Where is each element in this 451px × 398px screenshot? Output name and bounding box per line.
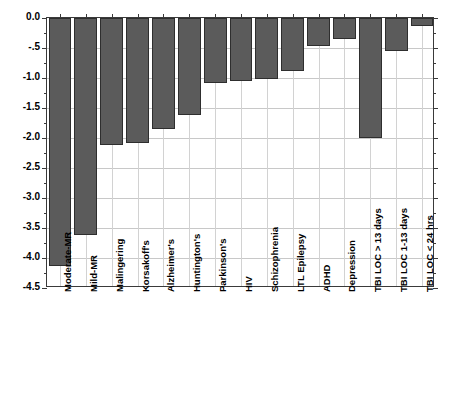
bar: [100, 18, 123, 145]
y-axis-minor-tick: [433, 213, 436, 214]
y-axis-major-tick: [433, 78, 438, 79]
gridline: [47, 198, 433, 199]
y-axis-major-tick: [42, 288, 47, 289]
bar: [307, 18, 330, 46]
y-axis-minor-tick: [433, 183, 436, 184]
y-axis-major-tick: [42, 228, 47, 229]
y-axis-major-tick: [433, 48, 438, 49]
y-axis-major-tick: [42, 48, 47, 49]
y-axis-major-tick: [42, 258, 47, 259]
y-axis-major-tick: [433, 168, 438, 169]
bar: [74, 18, 97, 235]
bar: [178, 18, 201, 115]
y-axis-major-tick: [42, 108, 47, 109]
y-axis-major-tick: [433, 138, 438, 139]
bar: [255, 18, 278, 79]
y-axis-minor-tick: [433, 123, 436, 124]
x-axis-category-label: Parkinson's: [218, 239, 228, 292]
x-axis-category-label: TBI LOC 1-13 days: [399, 208, 409, 292]
y-axis-minor-tick: [44, 63, 47, 64]
y-axis-major-tick: [42, 78, 47, 79]
y-axis-tick-label: -1.5: [2, 102, 40, 112]
y-axis-major-tick: [433, 18, 438, 19]
bar: [230, 18, 253, 81]
y-axis-minor-tick: [433, 33, 436, 34]
bar: [411, 18, 434, 26]
x-axis-category-label: Moderate-MR: [63, 232, 73, 292]
bar: [359, 18, 382, 138]
y-axis-minor-tick: [433, 63, 436, 64]
y-axis-tick-label: -2.5: [2, 162, 40, 172]
vertical-gridline: [344, 18, 345, 286]
y-axis-tick-label: -4.5: [2, 282, 40, 292]
y-axis-minor-tick: [44, 273, 47, 274]
y-axis-minor-tick: [44, 243, 47, 244]
x-axis-category-label: ADHD: [322, 265, 332, 292]
y-axis-minor-tick: [44, 93, 47, 94]
y-axis-tick-label: -3.0: [2, 192, 40, 202]
y-axis-tick-label: 0.0: [2, 12, 40, 22]
y-axis-minor-tick: [44, 183, 47, 184]
y-axis-minor-tick: [44, 213, 47, 214]
bar: [281, 18, 304, 71]
x-axis-category-label: Alzheimer's: [166, 239, 176, 292]
y-axis-minor-tick: [44, 153, 47, 154]
y-axis-major-tick: [42, 198, 47, 199]
vertical-gridline: [396, 18, 397, 286]
vertical-gridline: [422, 18, 423, 286]
y-axis-minor-tick: [44, 123, 47, 124]
y-axis-minor-tick: [433, 93, 436, 94]
bar: [385, 18, 408, 51]
x-axis-category-label: Korsakoff's: [141, 240, 151, 292]
bar: [126, 18, 149, 143]
x-axis-category-label: HIV: [244, 276, 254, 292]
bar: [204, 18, 227, 83]
x-axis-category-label: Depression: [347, 240, 357, 292]
vertical-gridline: [319, 18, 320, 286]
bar-chart: 0.0-.5-1.0-1.5-2.0-2.5-3.0-3.5-4.0-4.5 M…: [0, 0, 451, 398]
x-axis-category-label: Malingering: [115, 239, 125, 292]
y-axis-minor-tick: [433, 153, 436, 154]
y-axis-minor-tick: [44, 33, 47, 34]
x-axis-category-label: Mild-MR: [89, 255, 99, 292]
bar: [152, 18, 175, 129]
y-axis-tick-label: -4.0: [2, 252, 40, 262]
x-axis-category-label: LTL Epilepsy: [296, 234, 306, 292]
gridline: [47, 168, 433, 169]
x-axis-category-label: TBI LOC < 24 hrs: [425, 215, 435, 292]
y-axis-major-tick: [42, 138, 47, 139]
x-axis-category-label: TBI LOC > 13 days: [373, 208, 383, 292]
x-axis-category-label: Huntington's: [192, 234, 202, 292]
bar: [49, 18, 72, 266]
y-axis-tick-label: -1.0: [2, 72, 40, 82]
y-axis-major-tick: [433, 198, 438, 199]
y-axis-tick-label: -3.5: [2, 222, 40, 232]
bar: [333, 18, 356, 39]
x-axis-category-label: Schizophrenia: [270, 227, 280, 292]
y-axis-major-tick: [433, 108, 438, 109]
y-axis-major-tick: [42, 18, 47, 19]
y-axis-major-tick: [42, 168, 47, 169]
y-axis-tick-label: -2.0: [2, 132, 40, 142]
y-axis-tick-label: -.5: [2, 42, 40, 52]
